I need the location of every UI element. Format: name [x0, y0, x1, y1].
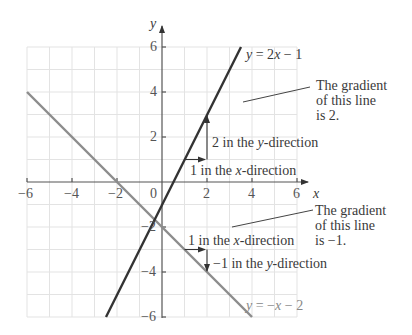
steep-dx-label: 1 in the x-direction — [190, 163, 296, 178]
x-tick: −4 — [64, 187, 79, 201]
callout-leader-steep — [243, 87, 310, 102]
y-tick: 6 — [150, 40, 157, 54]
y-tick: −2 — [141, 220, 156, 234]
y-tick: −4 — [141, 265, 156, 279]
callout-steep: The gradient of this line is 2. — [316, 78, 387, 123]
y-axis-label: y — [150, 16, 156, 31]
x-tick: −6 — [18, 187, 33, 201]
x-axis-label: x — [313, 186, 319, 201]
y-tick: 4 — [150, 85, 157, 99]
y-tick: 2 — [150, 130, 157, 144]
equation-steep: y = 2x − 1 — [246, 47, 302, 62]
callout-shallow: The gradient of this line is −1. — [315, 203, 386, 248]
x-tick: −2 — [108, 187, 123, 201]
callout-leader-shallow — [232, 210, 313, 227]
steep-dy-label: 2 in the y-direction — [212, 135, 318, 150]
x-tick: 4 — [248, 187, 255, 201]
x-tick: 6 — [293, 187, 300, 201]
x-tick: 2 — [203, 187, 210, 201]
y-tick: −6 — [141, 310, 156, 324]
x-tick: 0 — [150, 187, 157, 201]
shallow-dy-label: −1 in the y-direction — [213, 256, 327, 271]
equation-shallow: y = −x − 2 — [246, 298, 303, 313]
shallow-dx-label: 1 in the x-direction — [188, 233, 294, 248]
